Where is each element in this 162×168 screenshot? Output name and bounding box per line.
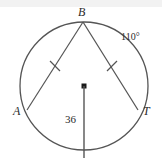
vertex-label-t: T	[143, 105, 150, 117]
arc-angle-label: 110°	[121, 32, 140, 42]
vertex-label-a: A	[13, 105, 20, 117]
geometry-figure: B A T 110° 36	[0, 0, 162, 168]
tick-mark-chord-ba	[50, 61, 60, 71]
vertex-label-b: B	[78, 6, 85, 18]
geometry-canvas	[0, 0, 162, 168]
radius-length-label: 36	[65, 114, 76, 125]
